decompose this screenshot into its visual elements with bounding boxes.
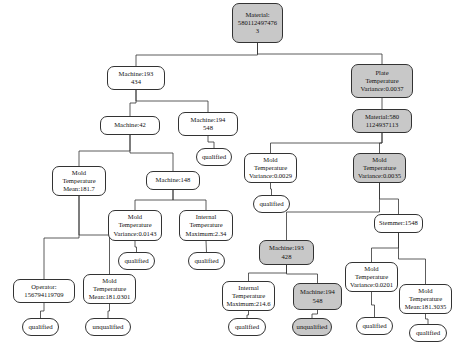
tree-node: Mold Temperature Variance:0.0143 [108,210,162,241]
tree-node: Internal Temperature Maximum:2.34 [179,210,233,241]
tree-edge [41,303,45,318]
decision-tree-diagram: Material: 580112497476 3Machine:193 434P… [0,0,466,361]
tree-edge [130,90,136,116]
tree-edge [79,135,130,166]
tree-node: Operator: 156794119709 [13,279,75,303]
leaf-node-qualified: qualified [356,317,393,335]
tree-edge [287,265,318,283]
tree-node: Mold Temperature Variance:0.0201 [345,262,398,292]
tree-edge [271,183,272,195]
tree-edge [135,190,173,210]
tree-node: Machine:42 [100,116,160,135]
leaf-node-qualified: qualified [228,318,266,336]
tree-edge [287,183,380,240]
tree-edge [136,90,208,112]
tree-node: Machine:193 428 [259,240,314,265]
tree-node: Mold Temperature Variance:0.0035 [353,153,406,183]
tree-node: Machine:148 [146,171,200,190]
leaf-node-qualified: qualified [253,195,290,213]
tree-edge [312,310,318,318]
leaf-node-unqualified: unqualified [292,318,332,336]
leaf-node-unqualified: unqualified [85,318,131,336]
tree-node: Internal Temperature Maximum:214.6 [222,281,275,311]
tree-edge [249,265,287,281]
tree-edge [372,233,399,262]
tree-node: Mold Temperature Mean:181.7 [52,166,106,196]
leaf-node-qualified: qualified [196,148,232,166]
tree-node: Material: 580112497476 3 [232,3,283,43]
tree-edge [108,304,110,318]
tree-edge [79,196,110,274]
tree-node: Plate Temperature Variance:0.0037 [351,64,413,98]
tree-node: Mold Temperature Mean:181.0301 [83,274,136,304]
tree-edge [135,241,137,252]
tree-edge [130,135,173,171]
tree-edge [44,196,79,279]
tree-edge [426,314,429,324]
tree-edge [258,43,383,64]
leaf-node-qualified: qualified [118,252,155,270]
tree-node: Machine:193 434 [107,66,165,90]
tree-edge [208,136,214,148]
tree-node: Machine:194 548 [293,283,342,310]
leaf-node-qualified: qualified [409,324,447,342]
tree-node: Material:580 1124937113 [352,109,412,133]
tree-edge [399,233,426,284]
tree-node: Machine:194 548 [178,112,238,136]
tree-edge [380,133,383,153]
tree-edge [380,183,399,214]
tree-edge [372,292,375,317]
tree-node: Stemmer:1548 [374,214,423,233]
tree-node: Mold Temperature Mean:181.3035 [399,284,452,314]
tree-edge [271,133,383,153]
tree-edge [136,43,258,66]
tree-node: Mold Temperature Variance:0.0029 [244,153,297,183]
tree-edge [173,190,206,210]
tree-edge [247,311,249,318]
leaf-node-qualified: qualified [188,252,225,270]
leaf-node-qualified: qualified [22,318,59,336]
tree-edge [206,241,207,252]
